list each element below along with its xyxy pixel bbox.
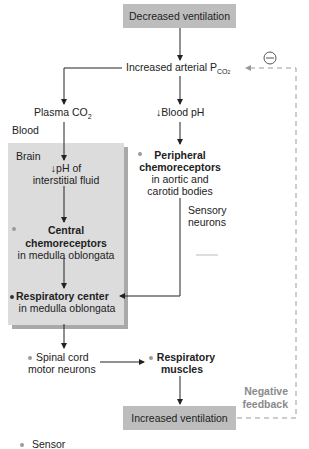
brain-label: Brain (16, 150, 41, 162)
increased-arterial-pco2: Increased arterial PCO2 (126, 61, 244, 75)
respiratory-center: Respiratory center in medulla oblongata (10, 290, 124, 314)
peripheral-chemoreceptors: Peripheral chemoreceptors in aortic and … (132, 149, 228, 197)
negative-feedback-label: Negative feedback (236, 385, 288, 411)
decreased-ventilation-box: Decreased ventilation (123, 4, 236, 28)
integrator-dot (10, 295, 14, 299)
arrow-peripheral-to-respcenter (120, 198, 180, 296)
sensor-legend-dot (20, 443, 24, 447)
blood-label: Blood (12, 124, 39, 136)
blood-ph: ↓Blood pH (156, 106, 204, 118)
respiratory-muscles: Respiratory muscles (144, 351, 220, 375)
sensor-dot-central (12, 227, 16, 231)
interstitial-ph: ↓pH of interstitial fluid (8, 162, 124, 186)
negative-feedback-line (237, 68, 296, 418)
increased-ventilation-box: Increased ventilation (123, 406, 236, 430)
sensory-neurons: Sensory neurons (188, 204, 227, 228)
spinal-cord-motor-neurons: Spinal cord motor neurons (28, 351, 96, 375)
sensor-dot-muscles (149, 356, 153, 360)
sensor-dot-spinal (28, 356, 32, 360)
legend-sensor: Sensor (20, 438, 65, 449)
arrow-pco2-to-plasma (64, 68, 122, 104)
central-chemoreceptors: Central chemoreceptors in medulla oblong… (8, 224, 124, 262)
plasma-co2: Plasma CO2 (34, 106, 92, 120)
sensor-dot-peripheral (138, 152, 142, 156)
